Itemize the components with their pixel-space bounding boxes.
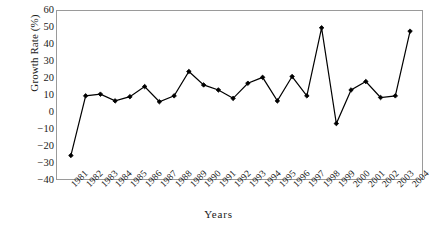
data-point-marker — [69, 153, 74, 158]
series-line — [71, 28, 410, 156]
y-tick-label: 20 — [14, 72, 54, 84]
x-axis-title: Years — [0, 208, 437, 220]
data-point-marker — [98, 92, 103, 97]
y-tick-label: 60 — [14, 4, 54, 16]
y-tick-label: −40 — [14, 174, 54, 186]
data-point-marker — [83, 94, 88, 99]
y-tick-label: −20 — [14, 140, 54, 152]
y-axis-tick-labels: 6050403020100−10−20−30−40 — [14, 10, 54, 180]
y-tick-label: 50 — [14, 21, 54, 33]
data-point-marker — [408, 29, 413, 34]
data-point-marker — [319, 26, 324, 31]
data-point-marker — [113, 99, 118, 104]
plot-area — [56, 10, 423, 180]
y-tick-label: 40 — [14, 38, 54, 50]
data-point-marker — [334, 121, 339, 126]
y-tick-label: −10 — [14, 123, 54, 135]
y-tick-label: 10 — [14, 89, 54, 101]
data-point-marker — [393, 94, 398, 99]
chart-figure: Growth Rate (%) 6050403020100−10−20−30−4… — [0, 0, 437, 231]
y-tick-label: 30 — [14, 55, 54, 67]
y-tick-label: −30 — [14, 157, 54, 169]
y-tick-label: 0 — [14, 106, 54, 118]
line-series-svg — [57, 11, 422, 179]
